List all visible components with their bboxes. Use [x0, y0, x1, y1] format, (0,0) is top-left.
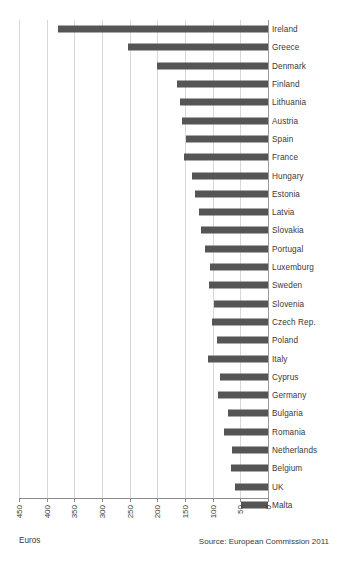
bar-slovenia: [214, 300, 268, 307]
x-tick-200: [157, 498, 158, 502]
x-tick-350: [74, 498, 75, 502]
category-label: France: [272, 153, 298, 162]
bar-romania: [224, 428, 268, 435]
category-label: Cyprus: [272, 372, 299, 381]
bar-row: Hungary: [19, 166, 268, 184]
category-label: Malta: [272, 500, 293, 509]
bar-row: Greece: [19, 38, 268, 56]
x-tick-label-50: 50: [236, 505, 245, 514]
bar-bulgaria: [228, 410, 268, 417]
x-tick-label-200: 200: [153, 505, 162, 518]
x-axis-line: [19, 498, 269, 499]
x-tick-label-0: 0: [264, 505, 273, 509]
category-label: Finland: [272, 80, 300, 89]
bar-row: Ireland: [19, 20, 268, 38]
category-label: Latvia: [272, 208, 294, 217]
bar-row: France: [19, 148, 268, 166]
bar-row: Estonia: [19, 185, 268, 203]
bar-row: Slovenia: [19, 295, 268, 313]
bar-lithuania: [180, 99, 268, 106]
bar-row: Portugal: [19, 240, 268, 258]
bar-row: Lithuania: [19, 93, 268, 111]
category-label: Ireland: [272, 25, 298, 34]
bar-germany: [218, 392, 268, 399]
bar-austria: [182, 117, 268, 124]
bar-row: Cyprus: [19, 368, 268, 386]
bar-netherlands: [232, 447, 268, 454]
bar-row: Italy: [19, 349, 268, 367]
category-label: Denmark: [272, 61, 306, 70]
bar-rows: IrelandGreeceDenmarkFinlandLithuaniaAust…: [19, 20, 268, 498]
category-label: Estonia: [272, 189, 300, 198]
plot-area: IrelandGreeceDenmarkFinlandLithuaniaAust…: [19, 20, 268, 498]
x-tick-300: [102, 498, 103, 502]
bar-row: Finland: [19, 75, 268, 93]
x-tick-label-300: 300: [98, 505, 107, 518]
source-note: Source: European Commission 2011: [199, 537, 329, 546]
category-label: UK: [272, 482, 284, 491]
bar-slovakia: [201, 227, 268, 234]
bar-row: Bulgaria: [19, 404, 268, 422]
category-label: Austria: [272, 116, 298, 125]
category-label: Netherlands: [272, 446, 317, 455]
category-label: Poland: [272, 336, 298, 345]
bar-hungary: [192, 172, 268, 179]
bar-row: Austria: [19, 112, 268, 130]
bar-estonia: [195, 190, 268, 197]
bar-chart: IrelandGreeceDenmarkFinlandLithuaniaAust…: [0, 0, 337, 561]
category-label: Bulgaria: [272, 409, 303, 418]
x-axis-title: Euros: [19, 536, 40, 545]
x-tick-450: [19, 498, 20, 502]
bar-row: Poland: [19, 331, 268, 349]
category-label: Germany: [272, 391, 306, 400]
bar-spain: [186, 135, 268, 142]
bar-row: Latvia: [19, 203, 268, 221]
category-label: Slovenia: [272, 299, 304, 308]
bar-uk: [235, 483, 268, 490]
x-tick-0: [268, 498, 269, 502]
bar-row: Denmark: [19, 57, 268, 75]
x-tick-label-150: 150: [181, 505, 190, 518]
category-label: Luxemburg: [272, 263, 314, 272]
bar-belgium: [231, 465, 268, 472]
bar-row: Netherlands: [19, 441, 268, 459]
bar-row: Sweden: [19, 276, 268, 294]
bar-row: Slovakia: [19, 221, 268, 239]
bar-row: Romania: [19, 423, 268, 441]
x-tick-label-400: 400: [43, 505, 52, 518]
bar-row: Spain: [19, 130, 268, 148]
category-label: Portugal: [272, 244, 303, 253]
category-label: Sweden: [272, 281, 302, 290]
x-tick-label-250: 250: [126, 505, 135, 518]
x-tick-label-350: 350: [70, 505, 79, 518]
bar-italy: [208, 355, 268, 362]
bar-czech-rep: [212, 318, 268, 325]
category-label: Lithuania: [272, 98, 306, 107]
x-tick-250: [130, 498, 131, 502]
bar-row: Belgium: [19, 459, 268, 477]
x-tick-100: [213, 498, 214, 502]
bar-row: Germany: [19, 386, 268, 404]
bar-row: Luxemburg: [19, 258, 268, 276]
category-label: Spain: [272, 134, 293, 143]
x-tick-400: [47, 498, 48, 502]
bar-cyprus: [220, 373, 268, 380]
category-label: Czech Rep.: [272, 317, 316, 326]
bar-portugal: [205, 245, 268, 252]
bar-sweden: [209, 282, 268, 289]
x-tick-50: [240, 498, 241, 502]
bar-finland: [177, 81, 268, 88]
bar-france: [184, 154, 268, 161]
bar-poland: [217, 337, 268, 344]
category-label: Greece: [272, 43, 299, 52]
gridline-0: [268, 20, 269, 498]
category-label: Slovakia: [272, 226, 304, 235]
bar-denmark: [157, 62, 268, 69]
category-label: Belgium: [272, 464, 302, 473]
bar-row: Czech Rep.: [19, 313, 268, 331]
category-label: Romania: [272, 427, 305, 436]
x-tick-label-450: 450: [15, 505, 24, 518]
category-label: Italy: [272, 354, 288, 363]
x-tick-150: [185, 498, 186, 502]
category-label: Hungary: [272, 171, 304, 180]
